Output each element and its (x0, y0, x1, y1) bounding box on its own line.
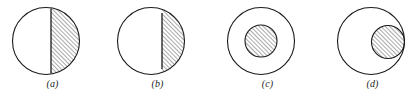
figure-panel-b: (b) (105, 0, 210, 105)
figure-panel-d: (d) (320, 0, 420, 105)
figure-b-graphic (105, 0, 210, 82)
circle-a-hatched-segment (51, 0, 105, 82)
figure-label-a: (a) (0, 78, 105, 90)
circle-d-inner-hatched (372, 26, 405, 59)
figure-a-graphic (0, 0, 105, 82)
circle-c-inner-hatched (245, 25, 277, 57)
figure-panel-c: (c) (215, 0, 320, 105)
figure-sheet: (a) (b) (0, 0, 420, 105)
figure-c-graphic (215, 0, 320, 82)
figure-label-b: (b) (105, 78, 210, 90)
figure-label-c: (c) (215, 78, 320, 90)
figure-d-graphic (320, 0, 420, 82)
figure-panel-a: (a) (0, 0, 105, 105)
figure-label-d: (d) (320, 78, 420, 90)
